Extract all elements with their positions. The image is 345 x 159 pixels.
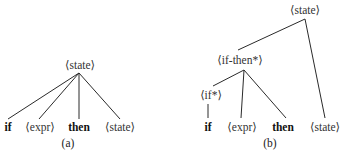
tree-b-leaf-then: then (272, 121, 294, 133)
tree-a-leaf-if: if (4, 121, 11, 133)
tree-b-leaf-state: ⟨state⟩ (310, 121, 340, 133)
tree-b-leaf-expr: ⟨expr⟩ (227, 121, 256, 133)
tree-a-leaf-then: then (68, 121, 90, 133)
tree-b-if-node: ⟨if*⟩ (200, 89, 222, 101)
edge-b-ifthen-then (244, 70, 286, 118)
edge-b-root-state (305, 19, 325, 118)
edge-b-ifthen-if (213, 70, 244, 86)
tree-a-root-node: ⟨state⟩ (65, 59, 95, 71)
tree-edges (0, 0, 345, 159)
edge-a-root-expr (39, 73, 79, 119)
tree-b-root-node: ⟨state⟩ (290, 4, 320, 16)
tree-a-caption: (a) (62, 137, 75, 149)
tree-a-leaf-state: ⟨state⟩ (105, 121, 135, 133)
edge-a-root-state (79, 73, 120, 119)
tree-b-leaf-if: if (204, 121, 211, 133)
edge-b-ifthen-expr (241, 70, 244, 118)
tree-b-if-then-node: ⟨if-then*⟩ (217, 54, 262, 66)
edge-a-root-if (8, 73, 79, 119)
edge-b-root-ifthen (238, 19, 305, 50)
tree-a-leaf-expr: ⟨expr⟩ (25, 121, 54, 133)
tree-b-caption: (b) (263, 137, 276, 149)
